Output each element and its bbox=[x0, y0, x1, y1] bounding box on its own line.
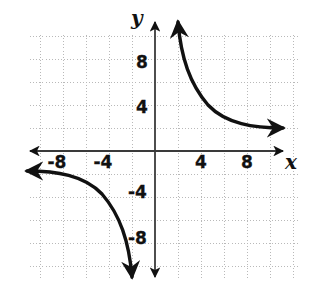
y-axis-label: y bbox=[131, 8, 143, 28]
x-tick-label-neg8: -8 bbox=[48, 154, 67, 171]
y-tick-label-neg4: -4 bbox=[128, 184, 147, 201]
x-axis-label: x bbox=[285, 152, 297, 172]
grid-lines bbox=[30, 35, 300, 278]
curve-branch-quadrant-one bbox=[178, 22, 283, 128]
curve-branch-quadrant-three bbox=[27, 171, 132, 277]
y-tick-label-4: 4 bbox=[136, 99, 148, 116]
coordinate-plane-svg bbox=[0, 0, 313, 288]
y-tick-label-8: 8 bbox=[136, 54, 148, 71]
x-tick-label-4: 4 bbox=[195, 154, 207, 171]
graph-figure: -8 -4 4 8 8 4 -4 -8 y x bbox=[0, 0, 313, 288]
x-tick-label-neg4: -4 bbox=[94, 154, 113, 171]
x-tick-label-8: 8 bbox=[241, 154, 253, 171]
y-tick-label-neg8: -8 bbox=[128, 230, 147, 247]
axis-lines bbox=[30, 22, 283, 277]
